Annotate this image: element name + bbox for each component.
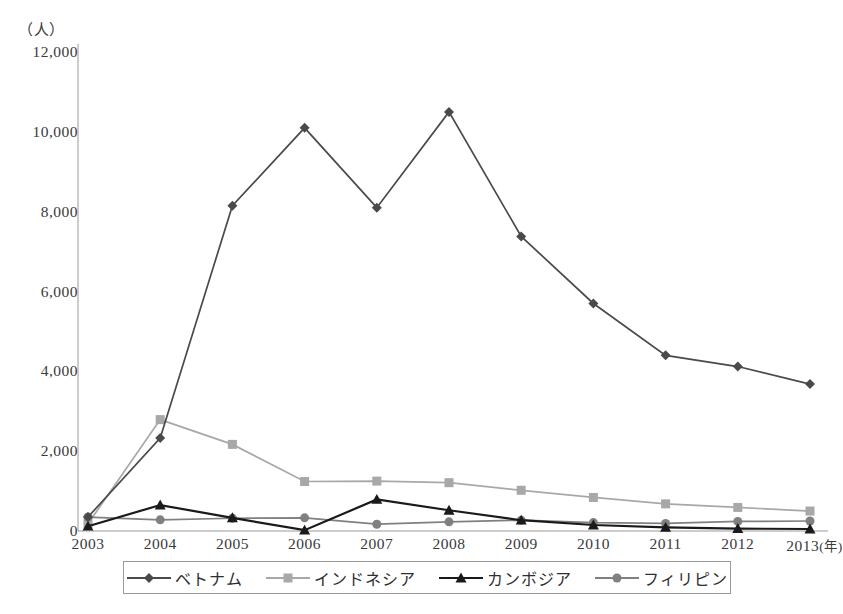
legend-item-ベトナム[interactable]: ベトナム <box>126 566 243 590</box>
data-point-インドネシア-2008 <box>445 478 454 487</box>
data-point-インドネシア-2004 <box>156 415 165 424</box>
data-point-インドネシア-2010 <box>589 493 598 502</box>
data-point-インドネシア-2009 <box>517 486 526 495</box>
series-フィリピン <box>84 513 815 529</box>
series-line-ベトナム <box>88 112 810 517</box>
legend-marker-square-icon <box>265 571 311 585</box>
data-point-カンボジア-2007 <box>371 494 382 504</box>
data-point-インドネシア-2007 <box>372 477 381 486</box>
data-point-フィリピン-2007 <box>372 520 381 529</box>
data-point-インドネシア-2012 <box>733 503 742 512</box>
data-point-フィリピン-2006 <box>300 513 309 522</box>
series-ベトナム <box>83 107 815 522</box>
legend-item-カンボジア[interactable]: カンボジア <box>438 566 572 590</box>
axes <box>78 44 828 531</box>
legend-marker-circle-icon <box>594 571 640 585</box>
legend-label: インドネシア <box>314 566 416 590</box>
data-point-ベトナム-2012 <box>733 362 743 372</box>
data-point-カンボジア-2004 <box>155 500 166 510</box>
legend-item-インドネシア[interactable]: インドネシア <box>265 566 416 590</box>
chart-legend: ベトナムインドネシアカンボジアフィリピン <box>123 561 731 594</box>
data-point-ベトナム-2013 <box>805 379 815 389</box>
data-point-インドネシア-2005 <box>228 440 237 449</box>
legend-item-フィリピン[interactable]: フィリピン <box>594 566 728 590</box>
data-point-インドネシア-2006 <box>300 477 309 486</box>
legend-label: ベトナム <box>175 566 243 590</box>
series-カンボジア <box>83 494 816 535</box>
legend-label: カンボジア <box>487 566 572 590</box>
data-point-インドネシア-2013 <box>806 507 815 516</box>
data-series <box>83 107 816 535</box>
data-point-インドネシア-2011 <box>661 499 670 508</box>
legend-marker-triangle-icon <box>438 571 484 585</box>
data-point-フィリピン-2008 <box>445 517 454 526</box>
legend-label: フィリピン <box>643 566 728 590</box>
legend-marker-diamond-icon <box>126 571 172 585</box>
data-point-フィリピン-2004 <box>156 515 165 524</box>
